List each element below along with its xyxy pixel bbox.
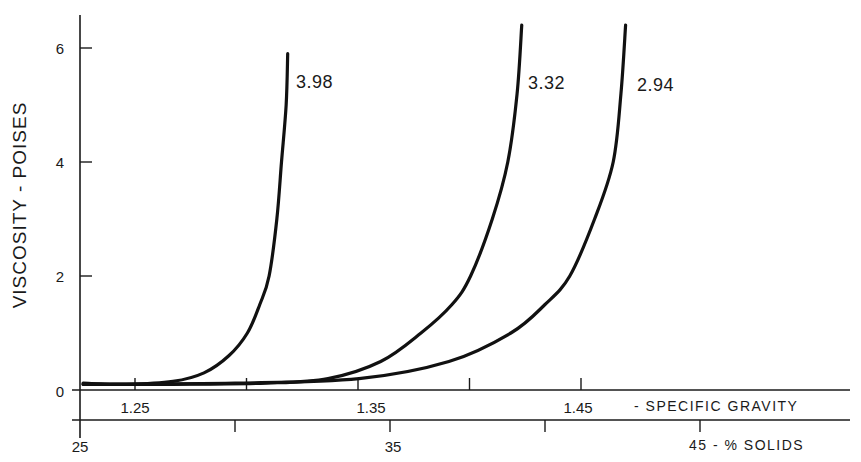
y-tick-2: 2 [56, 268, 64, 285]
axes [72, 15, 850, 438]
curve-label-3-98: 3.98 [296, 72, 333, 93]
solids-tick-35: 35 [385, 438, 402, 455]
solids-axis-title: 45 - % SOLIDS [689, 437, 804, 453]
curve-label-2-94: 2.94 [637, 75, 674, 96]
y-tick-4: 4 [56, 154, 64, 171]
curve-3-98 [83, 54, 288, 385]
solids-tick-25: 25 [72, 438, 89, 455]
sg-tick-1-45: 1.45 [563, 399, 592, 416]
sg-tick-1-25: 1.25 [120, 399, 149, 416]
y-ticks [80, 48, 92, 276]
y-tick-6: 6 [56, 40, 64, 57]
sg-tick-1-35: 1.35 [356, 399, 385, 416]
specific-gravity-axis-title: - SPECIFIC GRAVITY [634, 398, 798, 414]
viscosity-chart [0, 0, 861, 462]
y-tick-0: 0 [56, 383, 64, 400]
solids-ticks [235, 420, 700, 432]
curve-label-3-32: 3.32 [528, 73, 565, 94]
